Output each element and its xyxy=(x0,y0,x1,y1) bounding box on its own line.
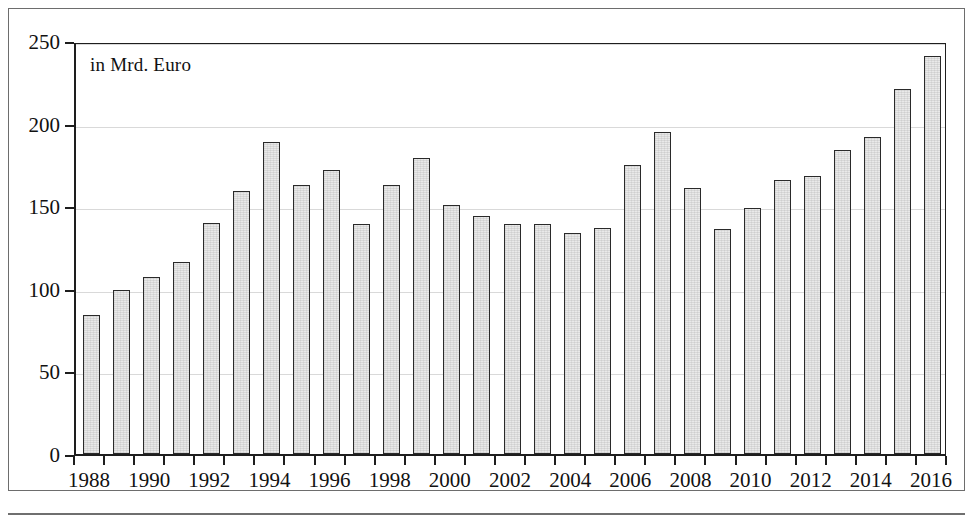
x-axis-tick xyxy=(73,456,75,465)
x-axis-tick xyxy=(314,456,316,465)
x-axis-label: 1994 xyxy=(248,468,290,492)
bar xyxy=(564,233,581,454)
y-axis: 050100150200250 xyxy=(10,0,74,521)
bar xyxy=(443,205,460,454)
chart-figure: 050100150200250 in Mrd. Euro 19881990199… xyxy=(0,0,975,521)
bar xyxy=(804,176,821,454)
y-axis-tick xyxy=(65,42,74,44)
bar xyxy=(323,170,340,454)
y-axis-label: 100 xyxy=(14,280,60,301)
bar xyxy=(924,56,941,454)
bar xyxy=(293,185,310,454)
y-axis-label: 150 xyxy=(14,197,60,218)
x-axis-label: 1996 xyxy=(309,468,351,492)
x-axis-label: 2002 xyxy=(489,468,531,492)
y-axis-tick xyxy=(65,125,74,127)
bar xyxy=(83,315,100,454)
y-axis-tick xyxy=(65,372,74,374)
x-axis-tick xyxy=(825,456,827,465)
x-axis-tick xyxy=(614,456,616,465)
bar xyxy=(473,216,490,454)
x-axis-tick xyxy=(223,456,225,465)
bar xyxy=(383,185,400,454)
y-axis-tick xyxy=(65,290,74,292)
x-axis-tick xyxy=(103,456,105,465)
x-axis-tick xyxy=(795,456,797,465)
x-axis-tick xyxy=(704,456,706,465)
x-axis-tick xyxy=(524,456,526,465)
x-axis-tick xyxy=(374,456,376,465)
bar xyxy=(263,142,280,454)
bar xyxy=(894,89,911,454)
bar xyxy=(624,165,641,454)
x-axis-label: 1988 xyxy=(68,468,110,492)
x-axis-tick xyxy=(344,456,346,465)
bar xyxy=(143,277,160,454)
x-axis-tick xyxy=(644,456,646,465)
bar xyxy=(684,188,701,454)
x-axis-tick xyxy=(253,456,255,465)
x-axis-tick xyxy=(885,456,887,465)
x-axis-tick xyxy=(554,456,556,465)
x-axis-label: 1992 xyxy=(188,468,230,492)
x-axis-label: 2008 xyxy=(669,468,711,492)
bar-series xyxy=(76,44,945,454)
plot-area: in Mrd. Euro xyxy=(74,43,946,456)
x-axis-tick xyxy=(855,456,857,465)
bar xyxy=(774,180,791,454)
x-axis-label: 2006 xyxy=(609,468,651,492)
x-axis-tick xyxy=(404,456,406,465)
x-axis-label: 2004 xyxy=(549,468,591,492)
x-axis-label: 1990 xyxy=(128,468,170,492)
bar xyxy=(744,208,761,454)
bar xyxy=(714,229,731,454)
x-axis-label: 2010 xyxy=(730,468,772,492)
y-axis-label: 250 xyxy=(14,32,60,53)
bar xyxy=(173,262,190,454)
bar xyxy=(534,224,551,454)
x-axis-tick xyxy=(193,456,195,465)
y-axis-label: 0 xyxy=(14,445,60,466)
bar xyxy=(233,191,250,454)
x-axis-tick xyxy=(494,456,496,465)
y-axis-label: 200 xyxy=(14,115,60,136)
bar xyxy=(413,158,430,454)
bar xyxy=(353,224,370,454)
x-axis-tick xyxy=(735,456,737,465)
bar xyxy=(203,223,220,454)
x-axis-tick xyxy=(915,456,917,465)
figure-bottom-rule xyxy=(8,513,965,515)
x-axis-tick xyxy=(434,456,436,465)
y-axis-label: 50 xyxy=(14,362,60,383)
bar xyxy=(594,228,611,454)
x-axis-label: 2000 xyxy=(429,468,471,492)
x-axis-tick xyxy=(765,456,767,465)
y-axis-tick xyxy=(65,207,74,209)
x-axis-tick xyxy=(283,456,285,465)
bar xyxy=(654,132,671,454)
bar xyxy=(113,290,130,454)
x-axis-tick xyxy=(464,456,466,465)
bar xyxy=(834,150,851,454)
x-axis-label: 2016 xyxy=(910,468,952,492)
bar xyxy=(504,224,521,454)
x-axis-tick xyxy=(584,456,586,465)
x-axis-tick xyxy=(163,456,165,465)
x-axis-tick xyxy=(945,456,947,465)
x-axis-label: 1998 xyxy=(369,468,411,492)
x-axis-tick xyxy=(133,456,135,465)
x-axis-tick xyxy=(674,456,676,465)
x-axis-label: 2012 xyxy=(790,468,832,492)
bar xyxy=(864,137,881,454)
x-axis-label: 2014 xyxy=(850,468,892,492)
